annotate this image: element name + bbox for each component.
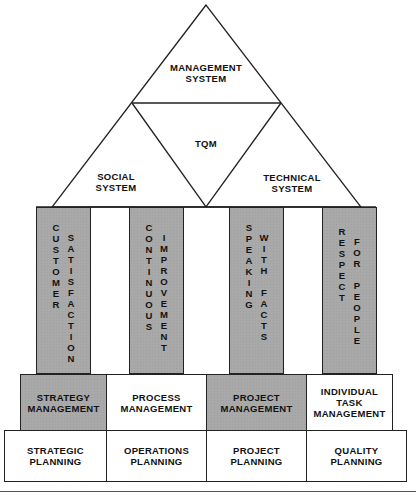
pillar-letter: R [339, 226, 346, 237]
pillar-respect-for-people: RESPECT FOR PEOPLE [322, 207, 377, 374]
quality-planning-cell: QUALITY PLANNING [307, 430, 407, 482]
pillar-letter: N [146, 277, 153, 288]
pillar-letter: A [261, 298, 268, 309]
pillar-letter [263, 276, 266, 287]
project-management-cell: PROJECT MANAGEMENT [207, 374, 307, 431]
pillar-word-respect: RESPECT [337, 226, 347, 303]
pillar-letter: E [53, 288, 59, 299]
pillar-letter: O [52, 266, 59, 277]
pillar-letter: S [53, 244, 59, 255]
strategy-management-cell: STRATEGY MANAGEMENT [20, 374, 107, 431]
planning-row: STRATEGIC PLANNING OPERATIONS PLANNING P… [4, 430, 407, 482]
pillar-word-improvement: IMPROVEMENT [159, 232, 169, 353]
pillar-letter: S [339, 248, 345, 259]
pillar-word-for-people: FOR PEOPLE [352, 236, 362, 346]
pillar-letter: R [354, 258, 361, 269]
pillar-letter: S [68, 276, 74, 287]
pillar-letter: A [68, 243, 75, 254]
project-planning-cell: PROJECT PLANNING [207, 430, 307, 482]
tqm-house-diagram: MANAGEMENT SYSTEM TQM SOCIAL SYSTEM TECH… [0, 0, 416, 497]
pillar-letter: P [354, 313, 360, 324]
pillar-letter: O [67, 342, 74, 353]
pillar-letter: F [261, 287, 267, 298]
pillar-letter: I [163, 232, 166, 243]
pillar-letter: C [53, 222, 60, 233]
pillar-letter: P [246, 233, 252, 244]
pillar-letter [356, 269, 359, 280]
pillar-letter: E [161, 320, 167, 331]
pillar-letter: C [146, 222, 153, 233]
pillar-letter: T [68, 254, 74, 265]
pillar-letter: N [146, 244, 153, 255]
pillar-word-customer: CUSTOMER [51, 222, 61, 310]
pillar-letter: S [146, 321, 152, 332]
bottom-separator-line [0, 491, 416, 492]
operations-planning-cell: OPERATIONS PLANNING [107, 430, 207, 482]
pillar-letter: V [161, 287, 167, 298]
pillar-letter: E [339, 237, 345, 248]
pillar-letter: N [161, 331, 168, 342]
pillar-letter: M [52, 277, 60, 288]
pillar-letter: L [354, 324, 360, 335]
pillar-letter: C [339, 281, 346, 292]
pillar-letter: E [246, 244, 252, 255]
pillar-letter: I [263, 243, 266, 254]
pillar-letter: I [248, 277, 251, 288]
pillar-letter: K [246, 266, 253, 277]
pillar-letter: E [161, 298, 167, 309]
pillar-letter: T [261, 320, 267, 331]
pillar-letter: M [160, 309, 168, 320]
pillar-letter: U [53, 233, 60, 244]
pillar-letter: O [353, 247, 360, 258]
pillar-letter: O [145, 233, 152, 244]
pillar-letter: R [53, 299, 60, 310]
pillar-letter: P [161, 254, 167, 265]
pillar-letter: N [246, 288, 253, 299]
pillar-letter: R [161, 265, 168, 276]
pillar-letter: A [68, 298, 75, 309]
pillar-word-speaking: SPEAKING [244, 222, 254, 310]
management-system-label: MANAGEMENT SYSTEM [156, 62, 256, 84]
pillar-letter: I [148, 266, 151, 277]
pillar-word-continuous: CONTINUOUS [144, 222, 154, 332]
pillar-letter: E [339, 270, 345, 281]
tqm-label: TQM [176, 138, 236, 149]
pillar-letter: S [68, 232, 74, 243]
pillar-customer-satisfaction: CUSTOMER SATISFACTION [36, 207, 91, 374]
pillar-letter: P [354, 280, 360, 291]
pillar-letter: I [70, 331, 73, 342]
pillar-letter: T [161, 342, 167, 353]
pillar-letter: O [353, 302, 360, 313]
pillar-letter: E [354, 335, 360, 346]
pillar-letter: F [354, 236, 360, 247]
roof-triangles [0, 0, 416, 210]
process-management-cell: PROCESS MANAGEMENT [107, 374, 207, 431]
pillar-letter: S [246, 222, 252, 233]
pillar-letter: P [339, 259, 345, 270]
pillar-letter: F [68, 287, 74, 298]
pillar-letter: G [245, 299, 252, 310]
strategic-planning-cell: STRATEGIC PLANNING [4, 430, 107, 482]
technical-system-label: TECHNICAL SYSTEM [256, 172, 328, 194]
pillar-letter: W [260, 232, 269, 243]
pillar-letter: T [146, 255, 152, 266]
pillar-letter: S [261, 331, 267, 342]
pillar-letter: O [160, 276, 167, 287]
pillar-letter: I [70, 265, 73, 276]
pillar-letter: M [160, 243, 168, 254]
pillar-letter: O [145, 299, 152, 310]
pillar-letter: N [68, 353, 75, 364]
social-system-label: SOCIAL SYSTEM [86, 171, 146, 193]
pillar-letter: E [354, 291, 360, 302]
pillar-letter: T [261, 254, 267, 265]
pillar-word-with-facts: WITH FACTS [259, 232, 269, 342]
pillar-letter: T [53, 255, 59, 266]
pillar-continuous-improvement: CONTINUOUS IMPROVEMENT [129, 207, 184, 374]
pillar-letter: H [261, 265, 268, 276]
individual-task-management-cell: INDIVIDUAL TASK MANAGEMENT [307, 374, 393, 431]
management-row: STRATEGY MANAGEMENT PROCESS MANAGEMENT P… [20, 374, 393, 431]
pillar-word-satisfaction: SATISFACTION [66, 232, 76, 364]
pillar-letter: A [246, 255, 253, 266]
pillar-letter: T [339, 292, 345, 303]
pillar-letter: C [261, 309, 268, 320]
